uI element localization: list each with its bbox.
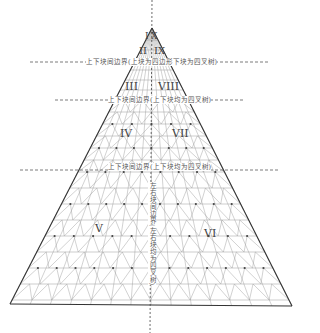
region-label-vi: VI bbox=[204, 227, 216, 240]
region-label-ix: IX bbox=[154, 45, 165, 56]
boundary-label-middle: 上下块间边界(上下块均为四叉树) bbox=[108, 96, 211, 104]
boundary-label-lower: 上下块间边界(上下块均为四叉树) bbox=[108, 163, 211, 171]
region-label-i: I bbox=[145, 31, 149, 41]
region-label-v: V bbox=[95, 222, 103, 235]
region-label-vii: VII bbox=[172, 127, 189, 140]
region-label-ii: II bbox=[139, 45, 147, 56]
region-label-viii: VIII bbox=[158, 80, 179, 93]
boundary-label-vertical: 左右块间边界(左右块均为四叉树) bbox=[148, 182, 156, 285]
region-label-iii: III bbox=[125, 80, 138, 93]
region-label-x: X bbox=[151, 31, 157, 41]
region-label-iv: IV bbox=[120, 127, 132, 140]
boundary-label-top: 上下块间边界(上块为四边形下块为四叉树) bbox=[86, 58, 217, 66]
